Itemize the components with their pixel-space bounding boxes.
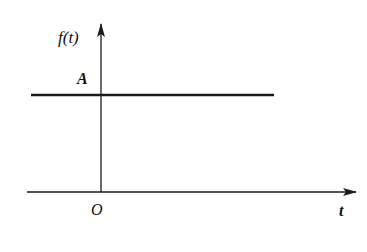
origin-label: O: [91, 201, 103, 218]
y-axis-label: f(t): [58, 28, 79, 47]
level-label: A: [76, 70, 88, 87]
x-axis-label: t: [339, 202, 344, 219]
signal-diagram: f(t) A O t: [0, 0, 367, 252]
